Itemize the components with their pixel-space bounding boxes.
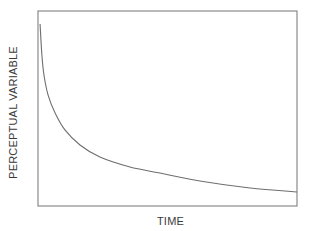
y-axis-label: PERCEPTUAL VARIABLE xyxy=(7,46,19,179)
chart: PERCEPTUAL VARIABLE TIME xyxy=(0,0,309,231)
series-line-perceptual-response xyxy=(40,24,297,192)
series-layer xyxy=(40,24,297,192)
plot-frame xyxy=(38,11,297,206)
x-axis-label: TIME xyxy=(157,215,184,227)
